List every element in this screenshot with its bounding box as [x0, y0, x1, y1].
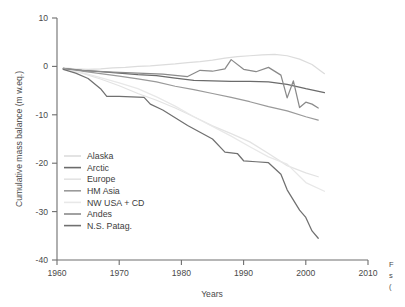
x-axis-title: Years [201, 289, 223, 299]
cumulative-mass-balance-chart: 10 0 -10 -20 -30 -40 1960 1970 1980 1990… [0, 0, 405, 307]
caption-fragment-line2: s [389, 271, 393, 282]
y-tick-label: -20 [36, 158, 49, 168]
chart-legend: AlaskaArcticEuropeHM AsiaNW USA + CDAnde… [64, 151, 144, 231]
caption-fragment-line3: ( [389, 282, 392, 293]
legend-label: HM Asia [87, 186, 120, 196]
x-tick-label: 2000 [296, 268, 315, 278]
series-line-alaska [63, 54, 324, 73]
series-line-hm-asia [63, 68, 318, 120]
legend-label: Europe [87, 174, 115, 184]
x-tick-label: 1960 [47, 268, 66, 278]
y-tick-label: -10 [36, 110, 49, 120]
y-ticks: 10 0 -10 -20 -30 -40 [36, 13, 57, 265]
series-line-nw-usa-cd [63, 69, 324, 191]
legend-label: N.S. Patag. [87, 221, 132, 231]
x-tick-label: 2010 [358, 268, 377, 278]
y-axis-title: Cumulative mass balance (m w.eq.) [14, 71, 24, 207]
figure-container: 10 0 -10 -20 -30 -40 1960 1970 1980 1990… [0, 0, 405, 307]
x-ticks: 1960 1970 1980 1990 2000 2010 [47, 260, 377, 278]
x-tick-label: 1970 [110, 268, 129, 278]
y-tick-label: -30 [36, 207, 49, 217]
legend-label: NW USA + CD [87, 198, 144, 208]
x-tick-label: 1980 [172, 268, 191, 278]
legend-label: Andes [87, 209, 113, 219]
y-tick-label: 10 [38, 13, 48, 23]
x-tick-label: 1990 [234, 268, 253, 278]
legend-label: Alaska [87, 151, 114, 161]
y-tick-label: -40 [36, 255, 49, 265]
caption-fragment-line1: F [389, 260, 394, 271]
legend-label: Arctic [87, 163, 110, 173]
y-tick-label: 0 [43, 61, 48, 71]
